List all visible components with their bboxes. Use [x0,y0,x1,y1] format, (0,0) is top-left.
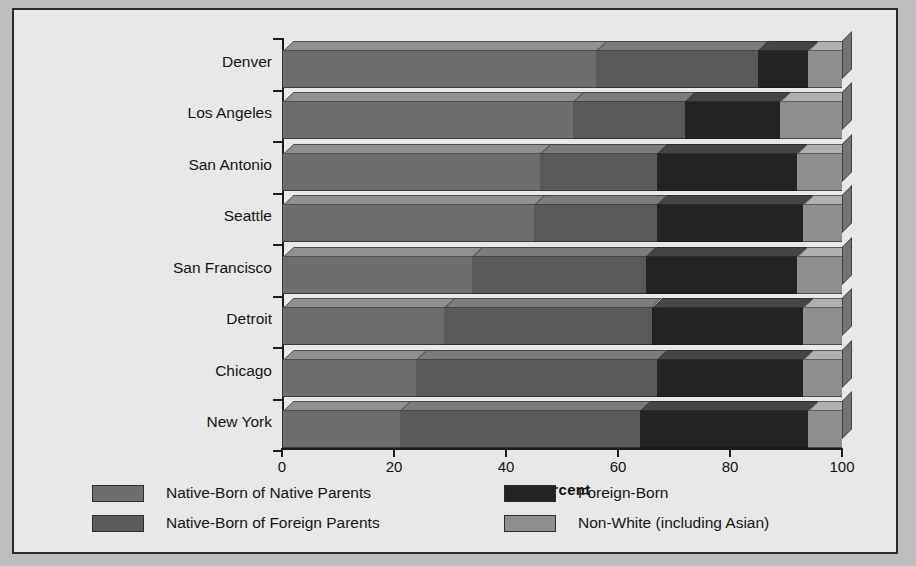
x-tick-20 [393,448,395,457]
bar-segment-top-face [657,144,808,154]
bar-segment [540,153,658,191]
bar-segment [640,410,808,448]
bar-row [282,101,842,139]
bar-segment [808,410,842,448]
legend-item: Native-Born of Foreign Parents [92,514,380,532]
y-tick-end [273,450,283,452]
legend-label: Non-White (including Asian) [578,514,769,532]
x-tick-60 [617,448,619,457]
bar-segment-top-face [472,247,656,257]
bar-segment-top-face [573,92,696,102]
category-axis-labels: DenverLos AngelesSan AntonioSeattleSan F… [14,38,272,450]
category-label-san-francisco: San Francisco [22,259,272,277]
bar-segment-top-face [444,298,662,308]
category-label-san-antonio: San Antonio [22,156,272,174]
category-label-seattle: Seattle [22,207,272,225]
value-axis-line [282,448,842,450]
bar-segment-side-face [842,288,852,336]
y-tick-0 [273,38,283,40]
bar-segment [400,410,641,448]
x-tick-label-0: 0 [252,458,312,475]
x-tick-label-80: 80 [700,458,760,475]
y-tick-5 [273,296,283,298]
y-tick-4 [273,244,283,246]
bar-segment [657,359,803,397]
y-tick-2 [273,141,283,143]
category-label-denver: Denver [22,53,272,71]
bar-segment [444,307,651,345]
chart-legend: Native-Born of Native ParentsNative-Born… [92,484,882,546]
bar-segment [758,50,808,88]
bar-segment-top-face [640,401,819,411]
bar-segment-side-face [842,82,852,130]
legend-label: Foreign-Born [578,484,668,502]
bar-segment-top-face [416,350,668,360]
bar-segment [657,153,797,191]
bar-segment [282,256,472,294]
bar-segment [282,50,596,88]
bar-segment [596,50,758,88]
legend-item: Native-Born of Native Parents [92,484,371,502]
bar-segment [808,50,842,88]
bar-row [282,359,842,397]
x-tick-label-100: 100 [812,458,872,475]
bar-segment [282,101,573,139]
bar-segment [652,307,803,345]
category-label-detroit: Detroit [22,310,272,328]
bar-segment-side-face [842,185,852,233]
chart-figure: DenverLos AngelesSan AntonioSeattleSan F… [12,8,898,554]
bar-segment [646,256,797,294]
bar-segment [780,101,842,139]
x-tick-80 [729,448,731,457]
bar-segment-top-face [283,144,551,154]
bar-segment-top-face [652,298,814,308]
x-tick-label-60: 60 [588,458,648,475]
bar-segment-side-face [842,340,852,388]
x-tick-label-40: 40 [476,458,536,475]
bar-segment-top-face [283,92,585,102]
bar-segment [797,153,842,191]
bar-segment-side-face [842,134,852,182]
legend-swatch [92,485,144,502]
bar-segment-top-face [400,401,652,411]
bar-row [282,256,842,294]
legend-swatch [504,515,556,532]
bar-segment [282,204,534,242]
x-tick-label-20: 20 [364,458,424,475]
bar-segment [282,153,540,191]
legend-swatch [92,515,144,532]
bar-segment [573,101,685,139]
bar-segment [282,410,400,448]
bar-row [282,204,842,242]
bar-segment-top-face [596,41,769,51]
bar-row [282,50,842,88]
x-tick-100 [841,448,843,457]
bar-row [282,410,842,448]
legend-item: Non-White (including Asian) [504,514,769,532]
bar-segment [803,359,842,397]
bar-segment-top-face [685,92,791,102]
bar-segment-side-face [842,391,852,439]
bar-segment-top-face [283,41,607,51]
bar-segment [416,359,657,397]
legend-swatch [504,485,556,502]
category-label-los-angeles: Los Angeles [22,104,272,122]
x-tick-40 [505,448,507,457]
legend-item: Foreign-Born [504,484,668,502]
legend-label: Native-Born of Foreign Parents [166,514,380,532]
bar-segment [803,204,842,242]
bar-segment-top-face [534,195,668,205]
y-tick-6 [273,347,283,349]
bar-row [282,307,842,345]
bar-segment [472,256,646,294]
bar-row [282,153,842,191]
bar-segment-top-face [646,247,808,257]
bar-segment [803,307,842,345]
bar-segment-top-face [657,350,813,360]
bar-segment-top-face [283,195,546,205]
category-label-new-york: New York [22,413,272,431]
bar-segment [685,101,780,139]
bar-segment [797,256,842,294]
bar-segment [282,307,444,345]
y-tick-7 [273,399,283,401]
